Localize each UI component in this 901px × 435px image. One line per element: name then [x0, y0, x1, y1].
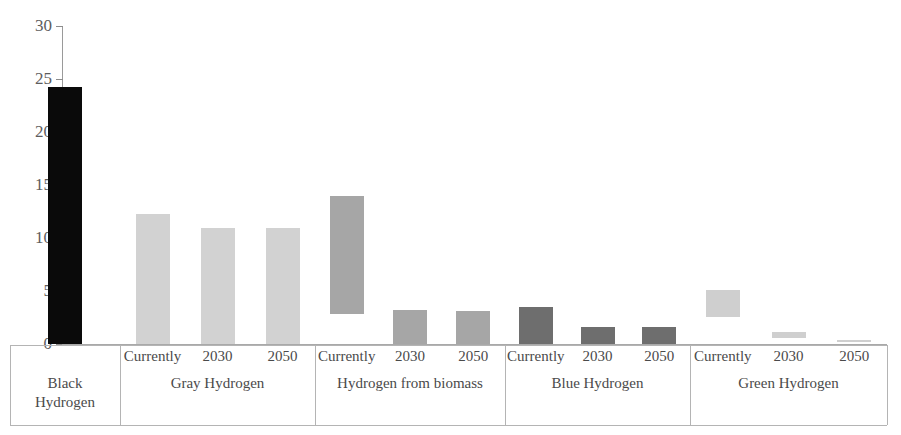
y-axis-tick-label-wrap: 25: [0, 70, 52, 87]
bar: [330, 196, 364, 315]
bar-chart: 051015202530 BlackHydrogenCurrently20302…: [0, 0, 901, 435]
plot-area: [62, 26, 887, 344]
category-label-table: BlackHydrogenCurrently20302050Gray Hydro…: [10, 345, 887, 425]
group-label-line: Black: [10, 374, 120, 393]
y-axis-tick-label: 30: [6, 17, 52, 34]
bar: [136, 214, 170, 344]
group-label: Green Hydrogen: [690, 374, 887, 393]
bar: [837, 340, 871, 342]
bar: [201, 228, 235, 344]
bar: [706, 290, 740, 318]
group-label-line: Hydrogen: [10, 393, 120, 412]
group-label-line: Blue Hydrogen: [505, 374, 690, 393]
label-table-rule: [10, 345, 887, 346]
group-label-line: Hydrogen from biomass: [315, 374, 505, 393]
bar: [581, 327, 615, 344]
y-axis-tick-label: 5: [6, 282, 52, 299]
y-axis-tick-label-wrap: 15: [0, 176, 52, 193]
label-table-rule: [10, 425, 887, 426]
y-axis-tick-label-wrap: 30: [0, 17, 52, 34]
bar: [642, 327, 676, 344]
group-label-line: Green Hydrogen: [690, 374, 887, 393]
group-label-line: Gray Hydrogen: [120, 374, 315, 393]
group-label: BlackHydrogen: [10, 374, 120, 412]
y-axis-tick-label: 10: [6, 229, 52, 246]
y-axis-tick-label-wrap: 20: [0, 123, 52, 140]
period-label: 2050: [814, 348, 894, 365]
bar: [772, 332, 806, 337]
y-axis-tick-label-wrap: 5: [0, 282, 52, 299]
group-label: Gray Hydrogen: [120, 374, 315, 393]
bar: [48, 87, 82, 344]
y-axis-tick-label: 15: [6, 176, 52, 193]
bar: [456, 311, 490, 344]
y-axis-tick-label-wrap: 10: [0, 229, 52, 246]
bar: [266, 228, 300, 344]
bar: [393, 310, 427, 344]
y-axis-tick-label: 25: [6, 70, 52, 87]
y-axis-tick-label: 20: [6, 123, 52, 140]
group-label: Blue Hydrogen: [505, 374, 690, 393]
group-label: Hydrogen from biomass: [315, 374, 505, 393]
bar: [519, 307, 553, 344]
